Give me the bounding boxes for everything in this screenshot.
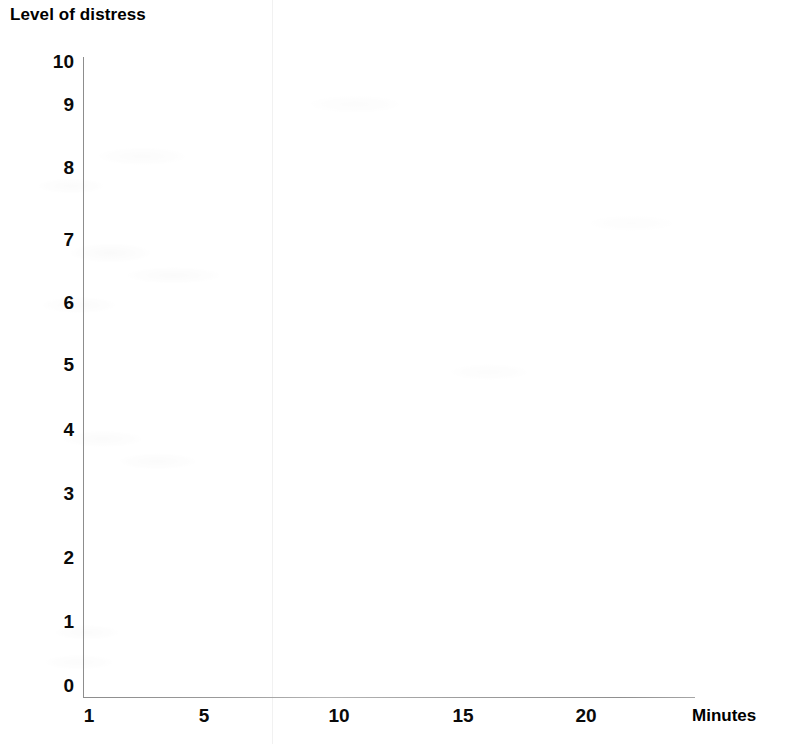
y-tick-label-10: 10 — [8, 52, 74, 71]
y-tick-label-8: 8 — [8, 158, 74, 177]
x-tick-label-5: 5 — [199, 706, 210, 725]
y-tick-label-3: 3 — [8, 484, 74, 503]
y-tick-label-0: 0 — [8, 676, 74, 695]
x-tick-label-1: 1 — [84, 706, 95, 725]
chart-page: Level of distress 10 9 8 7 6 5 4 3 2 1 0… — [0, 0, 789, 744]
x-tick-label-10: 10 — [328, 706, 349, 725]
x-tick-label-20: 20 — [575, 706, 596, 725]
x-tick-label-15: 15 — [452, 706, 473, 725]
y-tick-label-1: 1 — [8, 612, 74, 631]
y-tick-label-4: 4 — [8, 420, 74, 439]
x-axis-title: Minutes — [692, 706, 756, 726]
y-tick-label-9: 9 — [8, 95, 74, 114]
y-tick-label-5: 5 — [8, 355, 74, 374]
y-tick-label-7: 7 — [8, 230, 74, 249]
y-tick-label-2: 2 — [8, 548, 74, 567]
plot-area[interactable] — [84, 57, 695, 697]
y-axis-title: Level of distress — [10, 5, 146, 25]
x-axis-line — [83, 697, 695, 698]
y-tick-label-6: 6 — [8, 293, 74, 312]
